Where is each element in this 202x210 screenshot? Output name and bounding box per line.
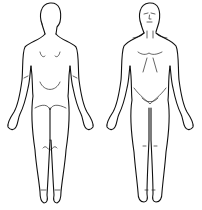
front-view-figure bbox=[107, 3, 193, 202]
back-view-figure bbox=[8, 3, 93, 203]
body-diagram bbox=[0, 0, 202, 210]
